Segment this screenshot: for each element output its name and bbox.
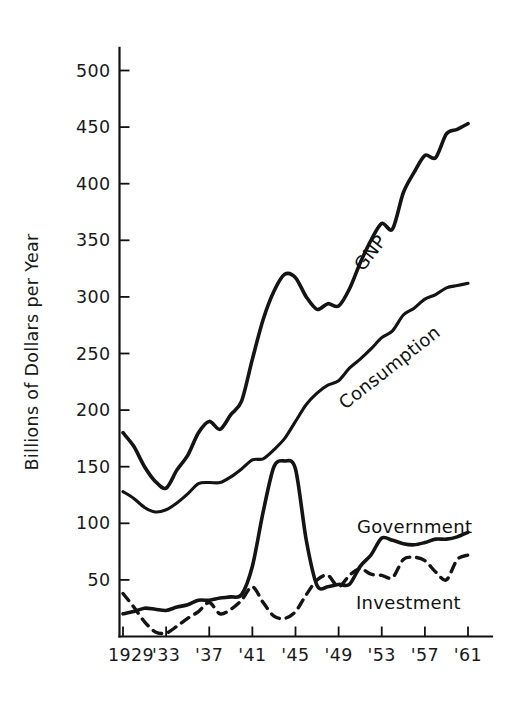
y-axis-title: Billions of Dollars per Year	[22, 233, 42, 470]
chart-figure: 50100150200250300350400450500 1929'33'37…	[0, 0, 513, 704]
x-tick-label: '45	[281, 645, 309, 665]
x-tick-label: '61	[454, 645, 482, 665]
y-tick-label: 450	[76, 117, 111, 137]
series-label-gnp: GNP	[350, 231, 391, 275]
x-tick-label: '33	[152, 645, 180, 665]
y-axis-tick-labels: 50100150200250300350400450500	[76, 61, 111, 590]
y-tick-label: 350	[76, 230, 111, 250]
chart-canvas: 50100150200250300350400450500 1929'33'37…	[0, 0, 513, 704]
x-tick-label: '49	[324, 645, 352, 665]
y-axis-ticks	[120, 71, 130, 580]
x-tick-label: 1929	[108, 645, 154, 665]
x-tick-label: '53	[368, 645, 396, 665]
y-tick-label: 400	[76, 174, 111, 194]
series-label-government: Government	[357, 516, 472, 537]
x-tick-label: '41	[238, 645, 266, 665]
x-tick-label: '57	[411, 645, 439, 665]
series-line-government	[123, 461, 468, 614]
y-tick-label: 250	[76, 344, 111, 364]
y-tick-label: 150	[76, 457, 111, 477]
y-tick-label: 50	[87, 570, 110, 590]
y-tick-label: 100	[76, 513, 111, 533]
series-group	[123, 124, 468, 634]
y-tick-label: 500	[76, 61, 111, 81]
x-axis-tick-labels: 1929'33'37'41'45'49'53'57'61	[108, 645, 482, 665]
x-tick-label: '37	[195, 645, 223, 665]
y-tick-label: 200	[76, 400, 111, 420]
series-label-investment: Investment	[356, 592, 461, 613]
y-tick-label: 300	[76, 287, 111, 307]
